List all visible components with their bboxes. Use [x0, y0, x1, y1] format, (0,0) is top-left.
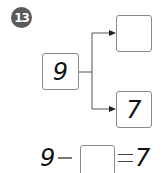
whole-number-box: 9	[42, 53, 79, 90]
equation-operand-1: 9	[40, 146, 55, 170]
arrow-top-icon	[109, 30, 116, 36]
arrow-bottom-icon	[109, 106, 116, 112]
minus-sign	[58, 157, 72, 159]
equation-answer-box[interactable]	[80, 145, 115, 173]
equals-sign	[118, 154, 133, 162]
answer-box-top-part[interactable]	[116, 15, 152, 52]
part-number-box: 7	[116, 91, 152, 128]
equation-result: 7	[135, 146, 150, 170]
